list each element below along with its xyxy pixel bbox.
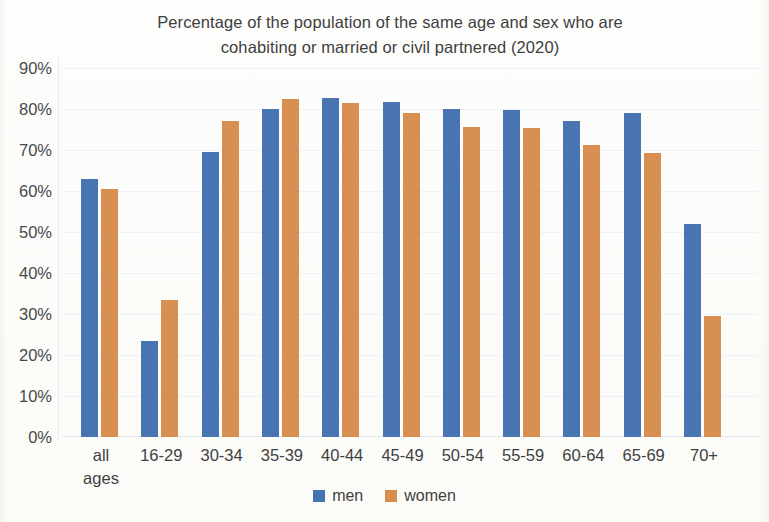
- legend-item-women[interactable]: women: [385, 487, 456, 505]
- x-axis-tick-label-line-1: 50-54: [442, 446, 484, 464]
- bar-men[interactable]: [684, 224, 701, 437]
- x-axis-tick-label: 16-29: [127, 444, 195, 467]
- y-axis-tick-label: 50%: [0, 223, 52, 242]
- chart-legend: menwomen: [0, 487, 769, 505]
- x-axis-tick-label-line-1: 16-29: [140, 446, 182, 464]
- bar-men[interactable]: [81, 179, 98, 437]
- bar-men[interactable]: [563, 121, 580, 437]
- bar-group: [563, 68, 603, 437]
- y-axis-tick-label: 70%: [0, 141, 52, 160]
- bar-men[interactable]: [383, 102, 400, 437]
- x-axis-tick-label: 55-59: [489, 444, 557, 467]
- bar-women[interactable]: [282, 99, 299, 437]
- x-axis-tick-label: 45-49: [369, 444, 437, 467]
- bar-group: [684, 68, 724, 437]
- chart-title-line-2: cohabiting or married or civil partnered…: [70, 35, 710, 60]
- legend-swatch-men-icon: [313, 490, 325, 502]
- chart-title-line-1: Percentage of the population of the same…: [70, 10, 710, 35]
- y-axis-tick-label: 60%: [0, 182, 52, 201]
- bar-group: [503, 68, 543, 437]
- bar-women[interactable]: [644, 153, 661, 437]
- bar-group: [624, 68, 664, 437]
- x-axis-tick-label-line-1: 35-39: [261, 446, 303, 464]
- x-axis-tick-label-line-1: 40-44: [321, 446, 363, 464]
- bar-women[interactable]: [403, 113, 420, 437]
- y-axis-labels: 90%80%70%60%50%40%30%20%10%0%: [0, 0, 56, 522]
- legend-swatch-women-icon: [385, 490, 397, 502]
- bar-women[interactable]: [463, 127, 480, 437]
- x-axis-tick-label: 30-34: [188, 444, 256, 467]
- chart-page: Percentage of the population of the same…: [0, 0, 769, 522]
- bar-men[interactable]: [141, 341, 158, 437]
- x-axis-tick-label-line-1: 30-34: [200, 446, 242, 464]
- bar-women[interactable]: [583, 145, 600, 437]
- bar-men[interactable]: [322, 98, 339, 437]
- bar-men[interactable]: [202, 152, 219, 437]
- bar-group: [443, 68, 483, 437]
- x-axis-tick-label-line-1: 45-49: [381, 446, 423, 464]
- y-axis-line: [58, 56, 59, 441]
- legend-label: men: [332, 487, 363, 505]
- y-axis-tick-label: 20%: [0, 346, 52, 365]
- legend-label: women: [404, 487, 456, 505]
- bar-women[interactable]: [222, 121, 239, 437]
- bar-women[interactable]: [161, 300, 178, 437]
- bar-group: [262, 68, 302, 437]
- x-axis-tick-label-line-1: all: [93, 446, 110, 464]
- legend-item-men[interactable]: men: [313, 487, 363, 505]
- bar-women[interactable]: [523, 128, 540, 437]
- y-axis-tick-label: 40%: [0, 264, 52, 283]
- bar-group: [141, 68, 181, 437]
- bar-group: [202, 68, 242, 437]
- bar-women[interactable]: [342, 103, 359, 437]
- x-axis-tick-label-line-1: 65-69: [623, 446, 665, 464]
- bar-group: [81, 68, 121, 437]
- x-axis-tick-label: 35-39: [248, 444, 316, 467]
- bar-men[interactable]: [262, 109, 279, 437]
- y-axis-tick-label: 0%: [0, 428, 52, 447]
- chart-title: Percentage of the population of the same…: [70, 10, 710, 60]
- y-axis-tick-label: 80%: [0, 100, 52, 119]
- bar-women[interactable]: [101, 189, 118, 437]
- bar-group: [322, 68, 362, 437]
- bar-men[interactable]: [624, 113, 641, 437]
- x-axis-tick-label-line-1: 55-59: [502, 446, 544, 464]
- x-axis-tick-label: allages: [67, 444, 135, 490]
- x-axis-tick-label-line-1: 70+: [690, 446, 718, 464]
- y-axis-tick-label: 30%: [0, 305, 52, 324]
- x-axis-tick-label: 65-69: [610, 444, 678, 467]
- x-axis-tick-label: 60-64: [549, 444, 617, 467]
- x-axis-tick-label: 40-44: [308, 444, 376, 467]
- x-axis-tick-label: 70+: [670, 444, 738, 467]
- bar-group: [383, 68, 423, 437]
- bar-men[interactable]: [503, 110, 520, 437]
- bar-women[interactable]: [704, 316, 721, 437]
- bars-layer: [62, 68, 759, 437]
- bar-men[interactable]: [443, 109, 460, 437]
- x-axis-tick-label: 50-54: [429, 444, 497, 467]
- y-axis-tick-label: 10%: [0, 387, 52, 406]
- x-axis-tick-label-line-1: 60-64: [562, 446, 604, 464]
- y-axis-tick-label: 90%: [0, 59, 52, 78]
